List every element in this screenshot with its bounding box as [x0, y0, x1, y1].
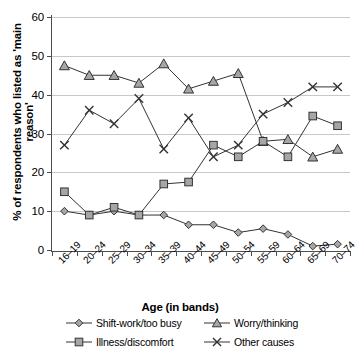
y-tick-label: 50	[18, 50, 44, 62]
x-axis-label: Age (in bands)	[0, 301, 360, 313]
data-point-cross	[209, 153, 217, 161]
y-tick-label: 30	[18, 128, 44, 140]
x-tick-mark	[77, 251, 78, 256]
x-tick-mark	[127, 251, 128, 256]
data-point-triangle	[308, 152, 318, 161]
series-line	[64, 116, 337, 215]
y-tick-label: 60	[18, 11, 44, 23]
data-point-square	[234, 153, 242, 161]
data-point-cross	[234, 141, 242, 149]
data-point-cross	[259, 110, 267, 118]
y-axis-label: % of respondents who listed as 'main rea…	[11, 7, 35, 237]
legend-item-diamond[interactable]: Shift-work/too busy	[66, 317, 204, 329]
data-point-square	[259, 137, 267, 145]
data-point-cross	[110, 120, 118, 128]
legend-label: Worry/thinking	[234, 317, 298, 329]
data-point-diamond	[61, 207, 69, 215]
data-point-diamond	[185, 221, 193, 229]
x-tick-mark	[325, 251, 326, 256]
data-point-diamond	[259, 225, 267, 233]
series-cross	[60, 83, 342, 161]
data-point-square	[75, 338, 83, 346]
series-square	[61, 112, 342, 219]
legend-item-triangle[interactable]: Worry/thinking	[204, 317, 346, 329]
x-tick-mark	[201, 251, 202, 256]
y-tick-label: 10	[18, 205, 44, 217]
data-point-triangle	[333, 144, 343, 153]
data-point-square	[284, 153, 292, 161]
chart-legend: Shift-work/too busyWorry/thinkingIllness…	[66, 317, 346, 348]
chart-root: % of respondents who listed as 'main rea…	[0, 0, 360, 352]
data-point-square	[309, 112, 317, 120]
data-point-square	[110, 203, 118, 211]
y-tick-label: 0	[18, 244, 44, 256]
data-point-square	[135, 211, 143, 219]
data-point-triangle	[208, 76, 218, 85]
data-point-triangle	[233, 69, 243, 78]
data-point-diamond	[210, 221, 218, 229]
series-layer	[52, 17, 350, 250]
data-point-square	[185, 178, 193, 186]
data-point-triangle	[59, 61, 69, 70]
data-point-triangle	[159, 59, 169, 68]
x-tick-mark	[300, 251, 301, 256]
data-point-cross	[184, 114, 192, 122]
series-line	[64, 87, 337, 157]
data-point-diamond	[75, 319, 83, 327]
x-tick-mark	[52, 251, 53, 256]
x-tick-mark	[176, 251, 177, 256]
x-tick-mark	[226, 251, 227, 256]
legend-label: Other causes	[234, 336, 294, 348]
data-point-diamond	[234, 229, 242, 237]
data-point-cross	[60, 141, 68, 149]
x-tick-mark	[350, 251, 351, 256]
data-point-square	[61, 188, 69, 196]
y-tick-label: 20	[18, 166, 44, 178]
legend-marker-cross	[204, 336, 230, 348]
x-tick-mark	[276, 251, 277, 256]
data-point-diamond	[284, 231, 292, 239]
y-tick-label: 40	[18, 89, 44, 101]
data-point-cross	[135, 94, 143, 102]
data-point-square	[334, 122, 342, 130]
legend-label: Shift-work/too busy	[96, 317, 182, 329]
series-triangle	[59, 59, 342, 161]
x-tick-mark	[251, 251, 252, 256]
data-point-diamond	[160, 211, 168, 219]
legend-marker-diamond	[66, 317, 92, 329]
data-point-square	[210, 141, 218, 149]
x-tick-mark	[102, 251, 103, 256]
legend-item-cross[interactable]: Other causes	[204, 336, 346, 348]
legend-item-square[interactable]: Illness/discomfort	[66, 336, 204, 348]
legend-label: Illness/discomfort	[96, 336, 174, 348]
legend-marker-square	[66, 336, 92, 348]
data-point-triangle	[283, 135, 293, 144]
legend-marker-triangle	[204, 317, 230, 329]
data-point-square	[160, 180, 168, 188]
data-point-square	[85, 211, 93, 219]
data-point-cross	[284, 98, 292, 106]
plot-area	[52, 17, 350, 250]
data-point-cross	[85, 106, 93, 114]
x-tick-mark	[151, 251, 152, 256]
data-point-cross	[160, 145, 168, 153]
